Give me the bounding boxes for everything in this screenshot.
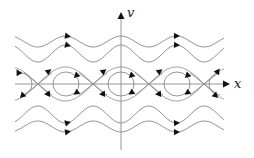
flow-arrow-icon <box>64 33 70 39</box>
flow-arrow-icon <box>64 41 71 47</box>
x-axis-label: x <box>234 76 242 91</box>
orbit-arrow-icon <box>74 89 81 95</box>
flow-arrow-icon <box>64 120 71 126</box>
axes-group: x v <box>15 5 242 150</box>
flow-arrow-icon <box>174 42 180 48</box>
phase-portrait-canvas: x v <box>0 0 254 158</box>
rotating-trajectory-upper-inner <box>15 45 224 62</box>
flow-arrow-icon <box>64 129 70 135</box>
x-axis-arrow-icon <box>223 81 230 88</box>
orbit-arrow-icon <box>129 89 136 95</box>
flow-arrow-icon <box>174 120 180 126</box>
rotating-trajectory-lower-inner <box>15 106 224 123</box>
phase-portrait-diagram: x v <box>0 0 254 158</box>
orbit-arrow-icon <box>185 89 192 95</box>
flow-arrow-icon <box>174 33 180 39</box>
v-axis-arrow-icon <box>118 12 125 19</box>
flow-arrow-icon <box>174 129 180 135</box>
v-axis-label: v <box>127 5 135 20</box>
